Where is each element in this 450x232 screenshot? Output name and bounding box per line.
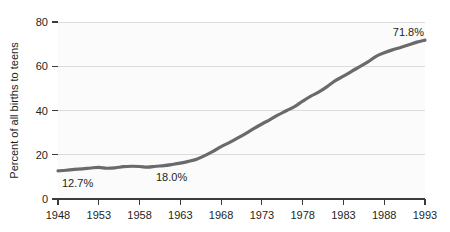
annotation-start-value: 12.7% xyxy=(62,177,93,189)
x-tick-label-1948: 1948 xyxy=(46,209,70,221)
x-tick-label-1983: 1983 xyxy=(331,209,355,221)
annotation-mid-value: 18.0% xyxy=(156,171,187,183)
y-tick-label-40: 40 xyxy=(36,105,48,117)
annotation-end-value: 71.8% xyxy=(393,26,424,38)
x-tick-label-1963: 1963 xyxy=(168,209,192,221)
y-tick-label-0: 0 xyxy=(42,193,48,205)
x-tick-label-1968: 1968 xyxy=(209,209,233,221)
y-tick-label-20: 20 xyxy=(36,149,48,161)
x-axis-ticks xyxy=(58,199,425,205)
y-axis-title: Percent of all births to teens xyxy=(8,42,20,179)
y-axis-ticks xyxy=(52,22,58,199)
x-tick-label-1988: 1988 xyxy=(372,209,396,221)
y-tick-label-80: 80 xyxy=(36,16,48,28)
x-tick-label-1958: 1958 xyxy=(127,209,151,221)
y-tick-label-60: 60 xyxy=(36,60,48,72)
x-tick-label-1978: 1978 xyxy=(290,209,314,221)
x-tick-label-1993: 1993 xyxy=(413,209,437,221)
x-tick-label-1973: 1973 xyxy=(250,209,274,221)
teen-nonmarital-births-line-chart: 80 60 40 20 0 Percent of all births to t… xyxy=(0,0,450,232)
chart-svg: 80 60 40 20 0 Percent of all births to t… xyxy=(0,0,450,232)
y-axis-tick-labels: 80 60 40 20 0 xyxy=(36,16,48,205)
x-axis-tick-labels: 1948 1953 1958 1963 1968 1973 1978 1983 … xyxy=(46,209,437,221)
x-tick-label-1953: 1953 xyxy=(87,209,111,221)
